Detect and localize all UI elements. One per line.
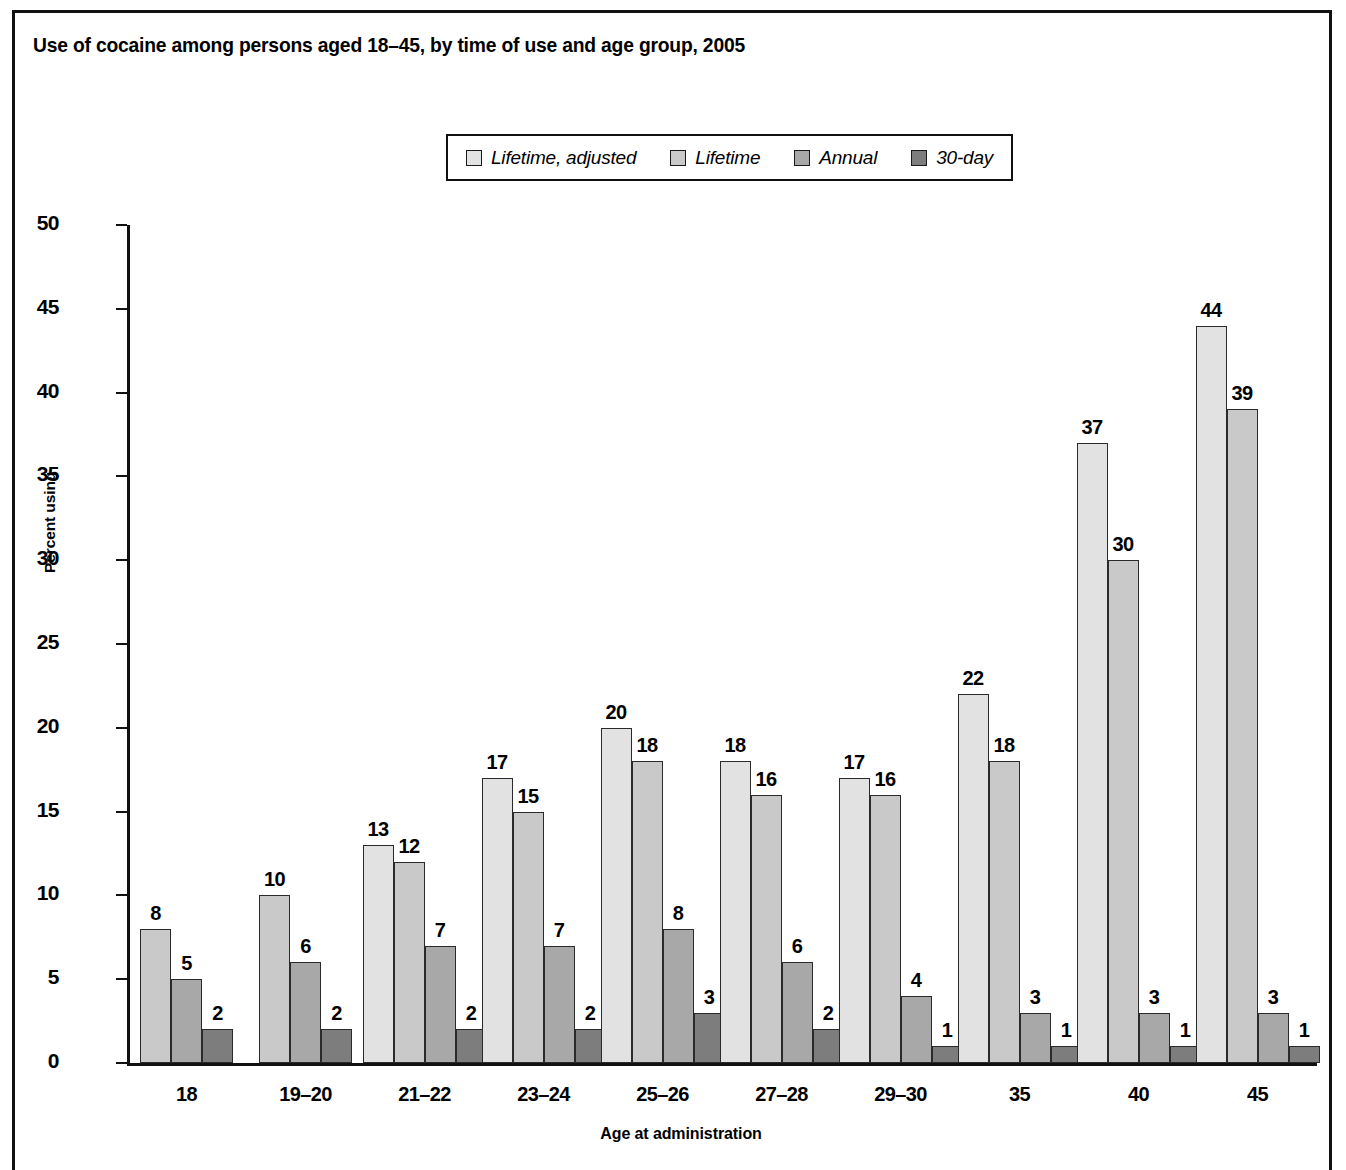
bar-column[interactable]: 7 <box>425 225 456 1063</box>
bar-column[interactable]: 44 <box>1196 225 1227 1063</box>
bar-column[interactable]: 30 <box>1108 225 1139 1063</box>
bar-column[interactable]: 13 <box>363 225 394 1063</box>
bar-column[interactable]: 17 <box>839 225 870 1063</box>
y-axis-tick-label: 0 <box>0 1049 59 1073</box>
bar-column[interactable]: 12 <box>394 225 425 1063</box>
bar[interactable] <box>901 996 932 1063</box>
x-axis-category-label: 35 <box>1009 1083 1030 1106</box>
legend-item[interactable]: Lifetime, adjusted <box>466 147 636 169</box>
bar[interactable] <box>870 795 901 1063</box>
bar[interactable] <box>1108 560 1139 1063</box>
bar[interactable] <box>632 761 663 1063</box>
bar-column[interactable]: 10 <box>259 225 290 1063</box>
bar-value-label: 44 <box>1200 299 1221 322</box>
bar[interactable] <box>958 694 989 1063</box>
bar-column[interactable]: 6 <box>290 225 321 1063</box>
bar-column[interactable]: 1 <box>1289 225 1320 1063</box>
bar[interactable] <box>782 962 813 1063</box>
chart-frame: Use of cocaine among persons aged 18–45,… <box>12 10 1332 1170</box>
bar[interactable] <box>1077 443 1108 1063</box>
legend-swatch-30-day <box>911 150 927 166</box>
legend-item-label: Annual <box>819 147 877 169</box>
bar-column[interactable]: 17 <box>482 225 513 1063</box>
x-axis-category-label: 40 <box>1128 1083 1149 1106</box>
y-axis-tick <box>116 894 127 896</box>
bar[interactable] <box>425 946 456 1063</box>
legend-item[interactable]: 30-day <box>911 147 993 169</box>
bar-column[interactable]: 18 <box>632 225 663 1063</box>
y-axis-tick-label: 35 <box>0 462 59 486</box>
bar[interactable] <box>202 1029 233 1063</box>
bar-column[interactable]: 20 <box>601 225 632 1063</box>
bar-group: 181662 <box>720 225 844 1063</box>
y-axis-tick-label: 10 <box>0 881 59 905</box>
bar-column[interactable]: 8 <box>663 225 694 1063</box>
bar[interactable] <box>601 728 632 1063</box>
bar[interactable] <box>720 761 751 1063</box>
bar-group: 221831 <box>958 225 1082 1063</box>
bar-value-label: 30 <box>1112 533 1133 556</box>
bar-column[interactable]: 37 <box>1077 225 1108 1063</box>
bar-column[interactable]: 8 <box>140 225 171 1063</box>
bar-column[interactable]: 18 <box>989 225 1020 1063</box>
bar[interactable] <box>171 979 202 1063</box>
bar-column[interactable]: 16 <box>751 225 782 1063</box>
legend-item[interactable]: Lifetime <box>670 147 760 169</box>
bar[interactable] <box>259 895 290 1063</box>
y-axis-tick <box>116 475 127 477</box>
y-axis-tick <box>116 643 127 645</box>
bar-group: 171641 <box>839 225 963 1063</box>
bar[interactable] <box>1258 1013 1289 1063</box>
bar-column[interactable]: 4 <box>901 225 932 1063</box>
bar-column[interactable]: 5 <box>171 225 202 1063</box>
legend-item[interactable]: Annual <box>794 147 877 169</box>
bar[interactable] <box>1020 1013 1051 1063</box>
bar-group: 852 <box>140 225 233 1063</box>
x-axis-category-label: 18 <box>176 1083 197 1106</box>
bar-column[interactable]: 2 <box>321 225 352 1063</box>
x-axis-category-label: 19–20 <box>279 1083 332 1106</box>
bar[interactable] <box>1196 326 1227 1063</box>
bar-column[interactable]: 2 <box>202 225 233 1063</box>
bar-column[interactable]: 18 <box>720 225 751 1063</box>
legend-swatch-annual <box>794 150 810 166</box>
bar-group: 443931 <box>1196 225 1320 1063</box>
bar-value-label: 6 <box>300 935 311 958</box>
bar[interactable] <box>1227 409 1258 1063</box>
bar-value-label: 1 <box>1299 1019 1310 1042</box>
bar[interactable] <box>989 761 1020 1063</box>
bar-column[interactable]: 3 <box>1139 225 1170 1063</box>
y-axis-tick <box>116 224 127 226</box>
bar[interactable] <box>663 929 694 1063</box>
bar-value-label: 8 <box>150 902 161 925</box>
bar[interactable] <box>1139 1013 1170 1063</box>
bar-value-label: 2 <box>585 1002 596 1025</box>
bar[interactable] <box>482 778 513 1063</box>
bar-column[interactable]: 6 <box>782 225 813 1063</box>
y-axis-tick <box>116 727 127 729</box>
bar-column[interactable]: 3 <box>1258 225 1289 1063</box>
bar[interactable] <box>1289 1046 1320 1063</box>
bar-column[interactable]: 15 <box>513 225 544 1063</box>
bar-column[interactable]: 16 <box>870 225 901 1063</box>
bar-column[interactable]: 22 <box>958 225 989 1063</box>
y-axis-tick-label: 5 <box>0 965 59 989</box>
bar[interactable] <box>839 778 870 1063</box>
bar[interactable] <box>140 929 171 1063</box>
bar-group: 171572 <box>482 225 606 1063</box>
y-axis-tick-label: 25 <box>0 630 59 654</box>
chart-legend: Lifetime, adjustedLifetimeAnnual30-day <box>446 134 1013 181</box>
bar[interactable] <box>394 862 425 1063</box>
bar[interactable] <box>751 795 782 1063</box>
legend-item-label: 30-day <box>936 147 993 169</box>
bar-column[interactable]: 3 <box>1020 225 1051 1063</box>
bar-column[interactable]: 39 <box>1227 225 1258 1063</box>
bar-value-label: 18 <box>993 734 1014 757</box>
bar[interactable] <box>544 946 575 1063</box>
bar[interactable] <box>321 1029 352 1063</box>
bar[interactable] <box>513 812 544 1063</box>
bar[interactable] <box>363 845 394 1063</box>
bar-column[interactable]: 7 <box>544 225 575 1063</box>
bar[interactable] <box>290 962 321 1063</box>
y-axis-tick-label: 30 <box>0 546 59 570</box>
